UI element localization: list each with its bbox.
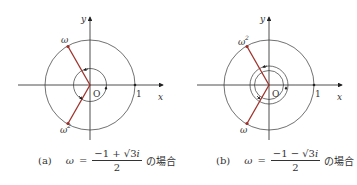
segment-omega	[247, 85, 269, 124]
fraction-numerator: −1 − √3i	[271, 148, 320, 161]
point-one	[313, 84, 316, 87]
caption-fraction: −1 + √3i 2	[92, 148, 141, 173]
origin-label: O	[93, 89, 100, 99]
unit-label: 1	[136, 89, 142, 99]
caption-lhs: ω	[66, 155, 74, 166]
label-omega: ω	[61, 35, 69, 45]
caption-suffix: の場合	[146, 153, 176, 168]
segment-omega-squared	[247, 47, 269, 86]
origin-label: O	[272, 89, 279, 99]
x-axis-label: x	[158, 92, 163, 102]
caption-equals: =	[257, 155, 265, 166]
diagram-b: y x O 1 ω 2 ω	[197, 14, 342, 140]
caption-equals: =	[79, 155, 87, 166]
fraction-numerator: −1 + √3i	[92, 148, 141, 161]
segment-omega-squared	[68, 85, 90, 124]
point-omega-squared	[245, 45, 248, 48]
caption-tag: (a)	[38, 155, 52, 166]
label-omega-squared-sup: 2	[66, 122, 71, 129]
caption-b: (b) ω = −1 − √3i 2 の場合	[216, 148, 354, 173]
y-axis-label: y	[259, 14, 266, 24]
caption-fraction: −1 − √3i 2	[271, 148, 320, 173]
x-axis-label: x	[337, 92, 342, 102]
caption-suffix: の場合	[324, 153, 354, 168]
rotation-arrow-1	[263, 66, 267, 67]
label-omega: ω	[240, 125, 248, 135]
y-axis-label: y	[80, 14, 87, 24]
point-omega	[66, 45, 69, 48]
fraction-denominator: 2	[114, 161, 120, 173]
label-omega-squared-sup: 2	[244, 34, 249, 41]
fraction-denominator: 2	[292, 161, 298, 173]
diagram-a: y x O 1 ω ω 2	[18, 14, 163, 140]
point-one	[134, 84, 137, 87]
caption-tag: (b)	[216, 155, 230, 166]
caption-lhs: ω	[244, 155, 252, 166]
segment-omega	[68, 47, 90, 86]
caption-a: (a) ω = −1 + √3i 2 の場合	[38, 148, 176, 173]
unit-label: 1	[315, 89, 321, 99]
